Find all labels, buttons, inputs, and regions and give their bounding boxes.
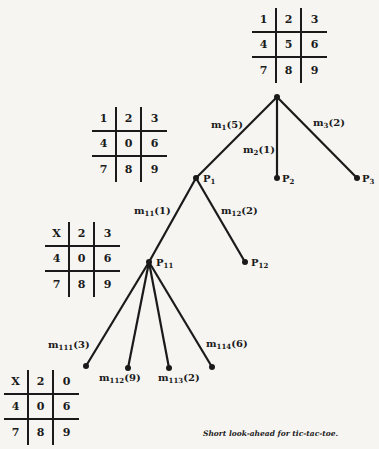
board-cell: X: [4, 370, 29, 395]
board-cell: 6: [302, 33, 327, 58]
board-cell: 3: [95, 222, 120, 247]
figure-caption: Short look-ahead for tic-tac-toe.: [203, 429, 338, 438]
board-cell: 1: [252, 8, 277, 33]
board-cell: 3: [302, 8, 327, 33]
node-leaf-1: [83, 363, 89, 369]
edge-m1: [196, 97, 277, 178]
node-root: [274, 94, 280, 100]
label-m112: m112(9): [99, 372, 141, 385]
board-cell: 7: [252, 58, 277, 83]
board-cell: 4: [92, 132, 117, 157]
node-p11: [146, 259, 152, 265]
board-cell: 9: [54, 420, 79, 445]
label-m1: m1(5): [211, 119, 243, 132]
board-cell: 2: [70, 222, 95, 247]
edge-m12: [196, 178, 245, 262]
node-p12: [242, 259, 248, 265]
board-p111: X 2 0 4 0 6 7 8 9: [4, 370, 79, 445]
board-cell: 6: [95, 247, 120, 272]
board-cell: 2: [277, 8, 302, 33]
label-m2: m2(1): [243, 144, 275, 157]
label-p11: P11: [156, 257, 173, 270]
label-m111: m111(3): [48, 339, 90, 352]
board-cell: 8: [70, 272, 95, 297]
board-p1: 1 2 3 4 0 6 7 8 9: [92, 107, 167, 182]
node-p2: [274, 175, 280, 181]
node-leaf-4: [209, 364, 215, 370]
board-cell: 0: [70, 247, 95, 272]
label-p2: P2: [282, 173, 295, 186]
label-m12: m12(2): [221, 205, 258, 218]
node-leaf-2: [125, 365, 131, 371]
board-cell: 7: [92, 157, 117, 182]
board-cell: 5: [277, 33, 302, 58]
label-m3: m3(2): [313, 117, 345, 130]
label-p1: P1: [203, 173, 216, 186]
label-m114: m114(6): [206, 338, 248, 351]
node-p3: [354, 175, 360, 181]
board-cell: 0: [54, 370, 79, 395]
board-cell: 9: [302, 58, 327, 83]
label-p3: P3: [362, 173, 375, 186]
board-cell: 6: [142, 132, 167, 157]
board-cell: X: [45, 222, 70, 247]
board-cell: 4: [252, 33, 277, 58]
board-cell: 0: [29, 395, 54, 420]
board-cell: 8: [117, 157, 142, 182]
board-cell: 9: [142, 157, 167, 182]
board-cell: 8: [277, 58, 302, 83]
node-p1: [193, 175, 199, 181]
game-tree-diagram: P1 P2 P3 P11 P12 m1(5) m2(1) m3(2) m11(1…: [0, 0, 379, 449]
board-cell: 6: [54, 395, 79, 420]
edge-m11: [149, 178, 196, 262]
board-cell: 2: [117, 107, 142, 132]
board-cell: 7: [4, 420, 29, 445]
board-root: 1 2 3 4 5 6 7 8 9: [252, 8, 327, 83]
board-cell: 1: [92, 107, 117, 132]
board-cell: 4: [4, 395, 29, 420]
board-p11: X 2 3 4 0 6 7 8 9: [45, 222, 120, 297]
label-m11: m11(1): [134, 205, 171, 218]
label-p12: P12: [251, 257, 268, 270]
label-m113: m113(2): [158, 372, 200, 385]
board-cell: 3: [142, 107, 167, 132]
board-cell: 7: [45, 272, 70, 297]
board-cell: 0: [117, 132, 142, 157]
edge-m3: [277, 97, 357, 178]
board-cell: 2: [29, 370, 54, 395]
board-cell: 9: [95, 272, 120, 297]
node-leaf-3: [166, 365, 172, 371]
board-cell: 4: [45, 247, 70, 272]
board-cell: 8: [29, 420, 54, 445]
